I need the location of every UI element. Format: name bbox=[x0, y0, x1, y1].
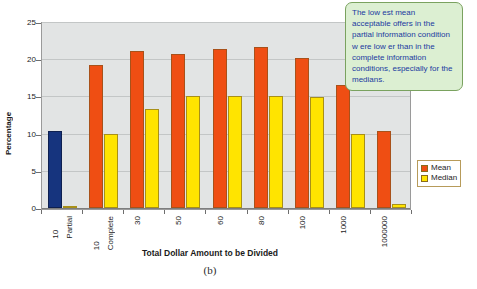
bar-median-7 bbox=[351, 134, 365, 208]
x-tick-mark bbox=[164, 210, 165, 214]
bar-mean-1 bbox=[89, 65, 103, 208]
x-category-line: Complete bbox=[104, 216, 118, 250]
x-category-line: 60 bbox=[214, 216, 228, 225]
bar-mean-7 bbox=[336, 85, 350, 209]
x-category-line: 100 bbox=[296, 216, 310, 229]
x-axis-baseline bbox=[42, 208, 410, 209]
y-tick-label: 10 bbox=[6, 131, 36, 139]
x-tick-mark bbox=[82, 210, 83, 214]
legend-item-median: Median bbox=[421, 173, 457, 183]
x-category-line: 10 bbox=[49, 216, 63, 239]
bar-mean-8 bbox=[377, 131, 391, 208]
x-category-label-1: 10Complete bbox=[90, 216, 118, 250]
x-tick-mark bbox=[247, 210, 248, 214]
y-tick-label: 20 bbox=[6, 56, 36, 64]
x-category-label-2: 30 bbox=[131, 216, 145, 225]
bar-median-3 bbox=[186, 96, 200, 208]
x-category-label-5: 80 bbox=[255, 216, 269, 225]
y-tick-label: 0 bbox=[6, 205, 36, 213]
legend-swatch-mean bbox=[421, 165, 428, 172]
x-tick-mark bbox=[329, 210, 330, 214]
legend-item-mean: Mean bbox=[421, 163, 457, 173]
legend-label: Median bbox=[431, 173, 457, 183]
bar-median-5 bbox=[269, 96, 283, 208]
x-category-label-7: 1000 bbox=[337, 216, 351, 234]
x-tick-mark bbox=[411, 210, 412, 214]
x-tick-mark bbox=[205, 210, 206, 214]
y-tick-label: 25 bbox=[6, 19, 36, 27]
bar-median-4 bbox=[228, 96, 242, 208]
x-category-label-8: 1000000 bbox=[378, 216, 392, 247]
x-axis-title: Total Dollar Amount to be Divided bbox=[0, 248, 420, 258]
x-category-label-0: 10Partial bbox=[49, 216, 77, 239]
x-category-line: 1000 bbox=[337, 216, 351, 234]
y-tick-label: 15 bbox=[6, 93, 36, 101]
figure-caption: (b) bbox=[0, 264, 420, 276]
x-tick-mark bbox=[123, 210, 124, 214]
x-tick-mark bbox=[288, 210, 289, 214]
bar-median-6 bbox=[310, 97, 324, 208]
bar-mean-6 bbox=[295, 58, 309, 208]
bar-median-1 bbox=[104, 134, 118, 208]
x-tick-mark bbox=[41, 210, 42, 214]
x-category-line: 10 bbox=[90, 216, 104, 250]
bar-mean-2 bbox=[130, 51, 144, 208]
x-tick-mark bbox=[370, 210, 371, 214]
x-category-label-6: 100 bbox=[296, 216, 310, 229]
bar-mean-5 bbox=[254, 47, 268, 208]
x-category-line: Partial bbox=[63, 216, 77, 239]
x-category-label-3: 50 bbox=[172, 216, 186, 225]
x-category-line: 80 bbox=[255, 216, 269, 225]
legend-swatch-median bbox=[421, 175, 428, 182]
x-category-line: 1000000 bbox=[378, 216, 392, 247]
bar-median-2 bbox=[145, 109, 159, 208]
x-category-label-4: 60 bbox=[214, 216, 228, 225]
bar-mean-0 bbox=[48, 131, 62, 208]
annotation-callout: The low est mean acceptable offers in th… bbox=[345, 2, 463, 91]
figure-panel: Percentage 0510152025 10Partial10Complet… bbox=[0, 0, 477, 289]
legend-label: Mean bbox=[431, 163, 451, 173]
legend: MeanMedian bbox=[417, 160, 461, 187]
x-category-line: 50 bbox=[172, 216, 186, 225]
x-category-line: 30 bbox=[131, 216, 145, 225]
bar-mean-4 bbox=[213, 49, 227, 208]
y-tick-label: 5 bbox=[6, 168, 36, 176]
bar-mean-3 bbox=[171, 54, 185, 208]
